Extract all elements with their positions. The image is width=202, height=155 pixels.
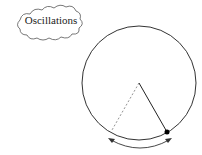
arrow-head-left bbox=[108, 138, 115, 143]
swing-arrow bbox=[111, 140, 169, 148]
pendulum-bob bbox=[165, 130, 170, 135]
dashed-rod bbox=[112, 83, 139, 130]
diagram-title: Oscillations bbox=[19, 14, 83, 26]
arrow-head-right bbox=[165, 138, 172, 143]
pendulum-rod bbox=[139, 83, 167, 132]
